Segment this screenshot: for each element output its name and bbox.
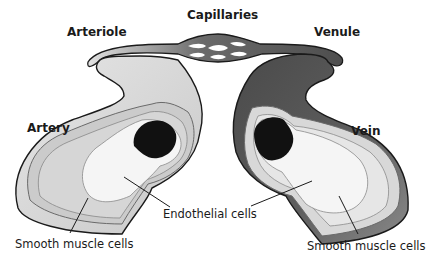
label-vein: Vein — [351, 125, 380, 137]
label-venule: Venule — [314, 26, 360, 38]
label-arteriole: Arteriole — [67, 26, 127, 38]
label-endothelial-cells: Endothelial cells — [163, 209, 257, 221]
label-smooth-muscle-left: Smooth muscle cells — [15, 239, 134, 251]
label-smooth-muscle-right: Smooth muscle cells — [307, 241, 426, 253]
label-capillaries: Capillaries — [187, 9, 258, 21]
label-artery: Artery — [27, 122, 70, 134]
blood-vessel-diagram: Capillaries Arteriole Venule Artery Vein… — [0, 0, 435, 271]
vein — [233, 54, 408, 244]
